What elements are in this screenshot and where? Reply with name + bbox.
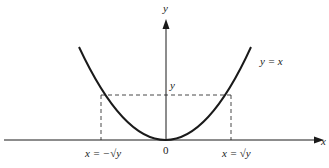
y-axis-label: y (163, 3, 168, 14)
curve-label: y = x (260, 56, 283, 67)
y-axis-arrow-icon (163, 19, 170, 29)
origin-label: 0 (163, 145, 169, 156)
level-label: y (170, 80, 175, 91)
left-root-label: x = −√y (85, 148, 121, 159)
parabola-curve (79, 47, 251, 140)
parabola-diagram (0, 0, 329, 168)
right-root-label: x = √y (222, 148, 251, 159)
x-axis-label: x (321, 136, 326, 147)
